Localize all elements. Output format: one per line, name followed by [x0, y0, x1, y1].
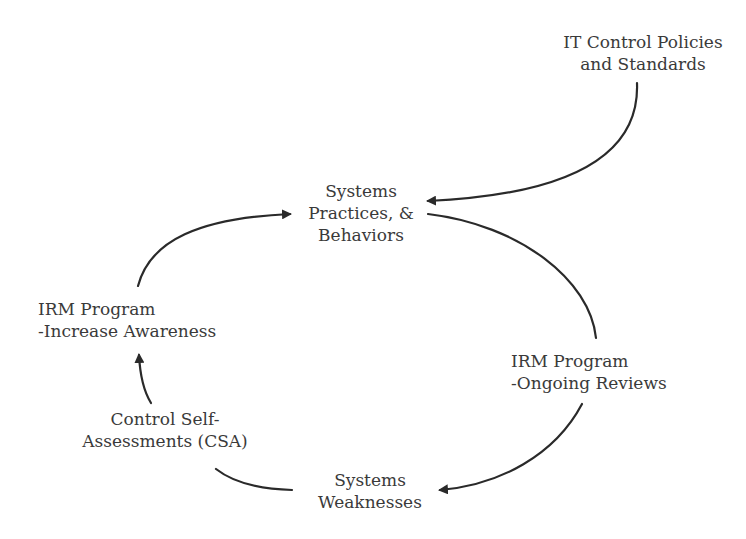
node-label-line: IRM Program [511, 350, 667, 372]
node-label-line: -Ongoing Reviews [511, 372, 667, 394]
node-systems-weaknesses: Systems Weaknesses [300, 469, 440, 513]
node-systems-practices: Systems Practices, & Behaviors [296, 180, 426, 246]
node-label-line: Behaviors [296, 224, 426, 246]
node-label-line: -Increase Awareness [38, 320, 216, 342]
node-label-line: Assessments (CSA) [70, 430, 260, 452]
node-irm-increase-awareness: IRM Program -Increase Awareness [38, 298, 216, 342]
node-label-line: Practices, & [296, 202, 426, 224]
node-label-line: Control Self- [70, 408, 260, 430]
node-label-line: IRM Program [38, 298, 216, 320]
arrows-layer [0, 0, 746, 539]
node-irm-ongoing-reviews: IRM Program -Ongoing Reviews [511, 350, 667, 394]
node-it-control-policies: IT Control Policies and Standards [548, 31, 738, 75]
edge-practices-to-ongoing-reviews [428, 214, 596, 338]
edge-ongoing-reviews-to-weaknesses [440, 404, 582, 490]
edge-increase-awareness-to-practices [138, 214, 290, 286]
node-label-line: and Standards [548, 53, 738, 75]
edge-it-policies-to-practices [428, 83, 637, 201]
node-label-line: IT Control Policies [548, 31, 738, 53]
node-label-line: Weaknesses [300, 491, 440, 513]
edge-weaknesses-to-csa [216, 469, 292, 490]
node-label-line: Systems [300, 469, 440, 491]
edge-csa-to-increase-awareness [139, 355, 151, 403]
node-control-self-assessments: Control Self- Assessments (CSA) [70, 408, 260, 452]
node-label-line: Systems [296, 180, 426, 202]
